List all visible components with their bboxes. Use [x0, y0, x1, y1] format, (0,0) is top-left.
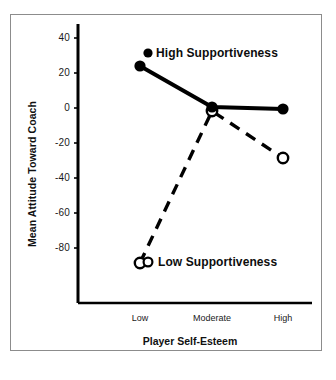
- x-tick-label-high: High: [259, 313, 307, 323]
- y-tick-label-neg80: -80: [40, 242, 70, 253]
- y-tick-label-20: 20: [44, 67, 70, 78]
- series-high-supportiveness-markers: [134, 60, 288, 114]
- y-axis-title: Mean Attitude Toward Coach: [26, 84, 38, 264]
- y-tick-label-neg20: -20: [40, 137, 70, 148]
- x-tick-label-low: Low: [115, 313, 165, 323]
- data-point-low-high: [278, 153, 288, 163]
- y-tick-label-neg40: -40: [40, 172, 70, 183]
- y-tick-label-0: 0: [44, 102, 70, 113]
- x-axis-title: Player Self-Esteem: [60, 335, 320, 347]
- figure-container: 40 20 0 -20 -40 -60 -80 Low Moderate Hig…: [0, 0, 336, 380]
- legend-marker-low-icon: [144, 258, 153, 267]
- series-low-supportiveness-markers: [135, 106, 288, 268]
- y-tick-label-neg60: -60: [40, 207, 70, 218]
- y-tick-label-40: 40: [44, 32, 70, 43]
- data-point-high-high: [277, 103, 288, 114]
- series-label-high-supportiveness: High Supportiveness: [156, 46, 278, 60]
- series-low-supportiveness-line: [140, 111, 283, 263]
- data-point-high-moderate: [206, 101, 217, 112]
- data-point-high-low: [134, 60, 145, 71]
- series-label-low-supportiveness: Low Supportiveness: [158, 255, 277, 269]
- x-tick-label-moderate: Moderate: [180, 313, 244, 323]
- legend-marker-high-icon: [143, 48, 152, 57]
